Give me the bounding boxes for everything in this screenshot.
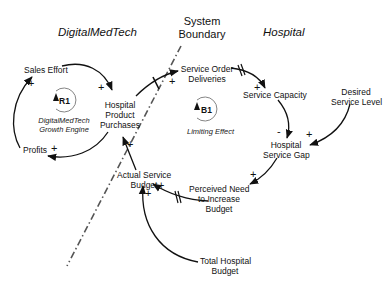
hsg-line1: Hospital [263,140,309,150]
var-perceived-need-to-increase-budget: Perceived Need to Increase Budget [189,184,249,214]
pnib-line3: Budget [189,204,249,214]
var-service-capacity: Service Capacity [243,90,307,100]
polarity-purchases-to-deliveries: + [169,76,175,87]
polarity-purchases-to-profits: + [51,143,57,154]
var-service-order-deliveries: Service Order Deliveries [180,64,234,84]
region-title-digitalmedtech: DigitalMedTech [58,26,137,38]
polarity-total-to-budget: + [145,188,151,199]
pnib-line2: to Increase [189,194,249,204]
thb-line2: Budget [200,266,250,276]
thb-line1: Total Hospital [200,256,250,266]
loop-b1-name: Limiting Effect [187,127,234,136]
link-desired-to-gap [310,104,350,145]
link-sales-to-purchases [62,64,112,90]
dsl-line2: Service Level [331,97,381,107]
pnib-line1: Perceived Need [189,184,249,194]
sod-line1: Service Order [180,64,234,74]
hpp-line2: Product [98,110,142,120]
r1-name-line1: DigitalMedTech [36,116,92,125]
polarity-deliveries-to-capacity: + [254,82,260,93]
var-hospital-service-gap: Hospital Service Gap [263,140,309,160]
sod-line2: Deliveries [180,74,234,84]
hpp-line1: Hospital [98,100,142,110]
polarity-budget-to-purchases: + [127,139,133,150]
var-total-hospital-budget: Total Hospital Budget [200,256,250,276]
boundary-label-line1: System [172,15,232,28]
system-boundary-line [67,46,181,266]
dsl-line1: Desired [331,87,381,97]
polarity-need-to-budget: + [158,180,164,191]
var-profits: Profits [23,145,47,155]
region-title-hospital: Hospital [263,26,305,38]
polarity-gap-to-need: + [250,169,256,180]
hsg-line2: Service Gap [263,150,309,160]
causal-loop-diagram [0,0,389,286]
hpp-line3: Purchases [98,120,142,130]
loop-b1-id: B1 [201,105,212,115]
boundary-label-line2: Boundary [172,28,232,41]
polarity-profits-to-sales: + [28,78,34,89]
var-desired-service-level: Desired Service Level [331,87,381,107]
loop-r1-id: R1 [59,96,70,106]
delay-mark-3a [175,191,178,203]
loop-r1-name: DigitalMedTech Growth Engine [36,116,92,134]
system-boundary-label: System Boundary [172,15,232,41]
polarity-sales-to-purchases: + [98,82,104,93]
var-hospital-product-purchases: Hospital Product Purchases [98,100,142,130]
polarity-capacity-to-gap: - [277,126,281,137]
polarity-desired-to-gap: + [306,129,312,140]
r1-name-line2: Growth Engine [36,125,92,134]
var-sales-effort: Sales Effort [24,65,68,75]
